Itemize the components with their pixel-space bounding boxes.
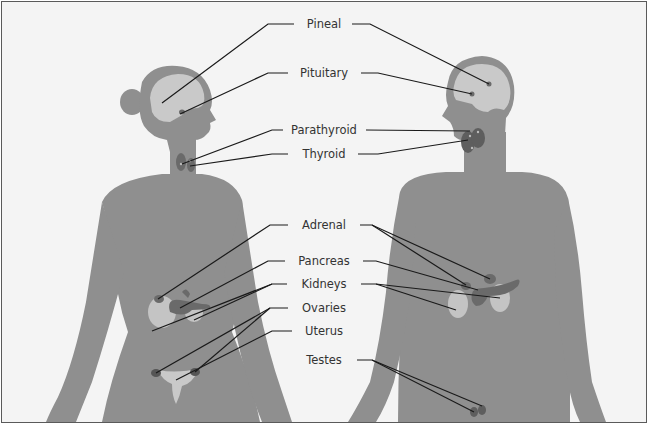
label-kidneys: Kidneys [301,277,346,291]
label-ovaries: Ovaries [302,301,346,315]
label-pineal: Pineal [307,17,341,31]
male-testis-right [478,405,486,415]
label-testes: Testes [306,353,342,367]
endocrine-diagram: Pineal Pituitary Parathyroid Thyroid Adr… [1,1,647,423]
label-thyroid: Thyroid [302,147,345,161]
label-uterus: Uterus [305,324,343,338]
label-adrenal: Adrenal [302,218,346,232]
label-parathyroid: Parathyroid [291,123,357,137]
label-pancreas: Pancreas [298,254,350,268]
label-pituitary: Pituitary [300,66,348,80]
